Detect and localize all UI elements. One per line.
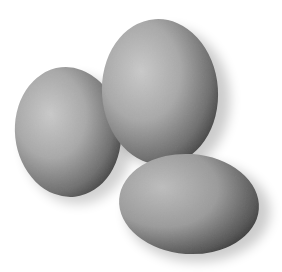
eggs-illustration bbox=[0, 0, 282, 272]
eggs-photo bbox=[0, 0, 282, 272]
